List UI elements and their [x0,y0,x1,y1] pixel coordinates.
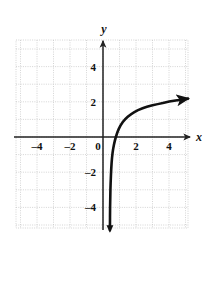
curve-tail-arrow [107,225,114,233]
x-axis-label: x [195,130,202,144]
y-axis-label: y [99,22,107,36]
x-tick-label: 0 [95,140,101,152]
graph-figure: –4–202442–2–4 x y [0,0,216,291]
x-tick-label: –4 [31,140,44,152]
coordinate-plane-svg: –4–202442–2–4 x y [0,0,216,291]
y-tick-label: –4 [84,201,97,213]
x-tick-label: 2 [133,140,139,152]
grid-lines [16,40,188,228]
y-tick-label: 2 [91,96,97,108]
x-tick-label: 4 [166,140,172,152]
y-tick-label: –2 [84,166,97,178]
x-tick-label: –2 [64,140,77,152]
y-tick-label: 4 [91,61,97,73]
